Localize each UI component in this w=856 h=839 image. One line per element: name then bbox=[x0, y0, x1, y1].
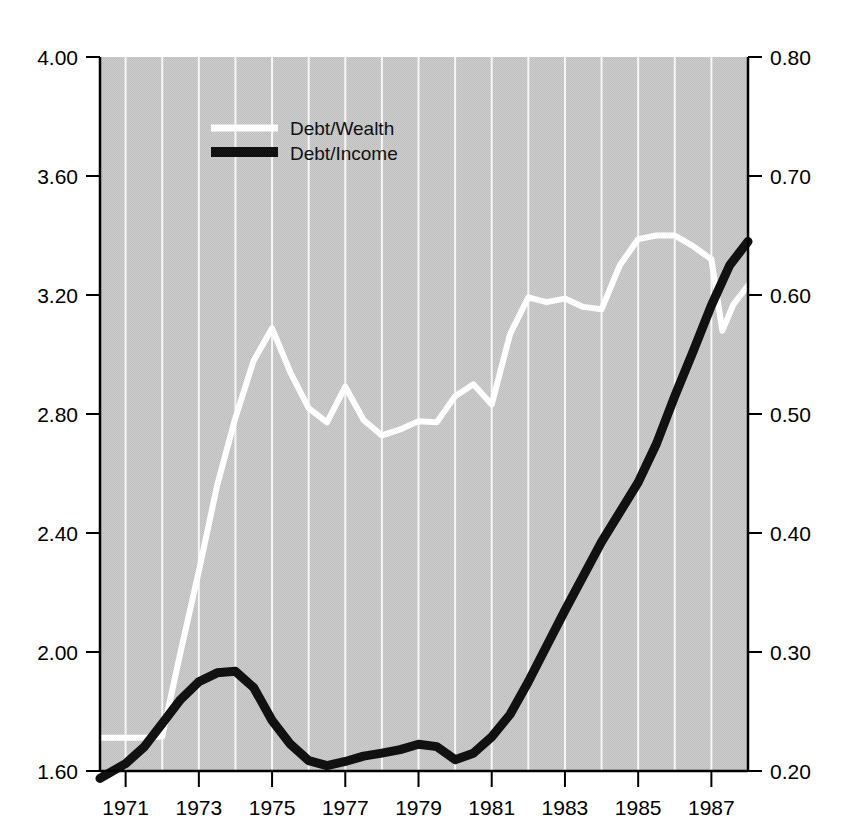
left-tick-label-4: 3.20 bbox=[37, 284, 78, 307]
x-tick-label-7: 1985 bbox=[615, 796, 662, 819]
right-tick-label-5: 0.70 bbox=[770, 165, 811, 188]
plot-background bbox=[100, 57, 748, 771]
chart-svg: 1.602.002.402.803.203.604.00 0.200.300.4… bbox=[0, 0, 856, 839]
right-tick-label-3: 0.50 bbox=[770, 403, 811, 426]
x-tick-label-4: 1979 bbox=[395, 796, 442, 819]
left-tick-label-2: 2.40 bbox=[37, 522, 78, 545]
left-tick-label-3: 2.80 bbox=[37, 403, 78, 426]
x-tick-label-1: 1973 bbox=[175, 796, 222, 819]
left-tick-label-0: 1.60 bbox=[37, 760, 78, 783]
x-tick-label-5: 1981 bbox=[468, 796, 515, 819]
x-tick-label-8: 1987 bbox=[688, 796, 735, 819]
left-tick-label-5: 3.60 bbox=[37, 165, 78, 188]
x-tick-label-0: 1971 bbox=[102, 796, 149, 819]
legend-label-debt-income: Debt/Income bbox=[290, 143, 398, 164]
right-tick-label-4: 0.60 bbox=[770, 284, 811, 307]
left-tick-label-6: 4.00 bbox=[37, 46, 78, 69]
right-tick-label-6: 0.80 bbox=[770, 46, 811, 69]
x-tick-label-2: 1975 bbox=[249, 796, 296, 819]
x-tick-label-6: 1983 bbox=[542, 796, 589, 819]
right-tick-label-2: 0.40 bbox=[770, 522, 811, 545]
legend-label-debt-wealth: Debt/Wealth bbox=[290, 118, 394, 139]
right-tick-label-1: 0.30 bbox=[770, 641, 811, 664]
x-tick-label-3: 1977 bbox=[322, 796, 369, 819]
right-tick-label-0: 0.20 bbox=[770, 760, 811, 783]
chart-figure: 1.602.002.402.803.203.604.00 0.200.300.4… bbox=[0, 0, 856, 839]
chart-page: 1.602.002.402.803.203.604.00 0.200.300.4… bbox=[0, 0, 856, 839]
left-tick-label-1: 2.00 bbox=[37, 641, 78, 664]
